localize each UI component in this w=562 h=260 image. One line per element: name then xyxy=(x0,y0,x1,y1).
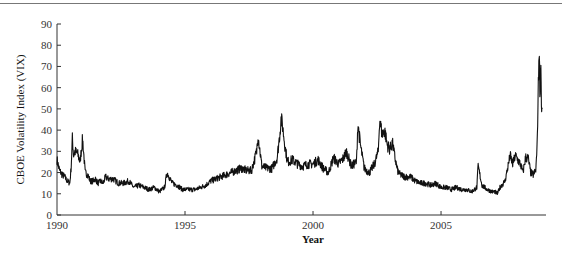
vix-series-line xyxy=(57,56,542,194)
y-axis-title: CBOE Volatility Index (VIX) xyxy=(14,54,27,184)
y-axis-ticks: 0102030405060708090 xyxy=(41,18,61,221)
x-tick-label: 2005 xyxy=(430,219,453,231)
vix-line-chart: 0102030405060708090 1990199520002005 CBO… xyxy=(0,0,562,260)
y-tick-label: 20 xyxy=(41,167,53,179)
y-tick-label: 30 xyxy=(41,145,53,157)
x-tick-label: 1995 xyxy=(174,219,197,231)
y-tick-label: 40 xyxy=(41,124,53,136)
y-tick-label: 80 xyxy=(41,39,53,51)
x-tick-label: 2000 xyxy=(302,219,325,231)
y-tick-label: 10 xyxy=(41,188,53,200)
y-tick-label: 90 xyxy=(41,18,53,30)
y-tick-label: 60 xyxy=(41,82,53,94)
x-axis-ticks: 1990199520002005 xyxy=(46,211,453,231)
y-tick-label: 70 xyxy=(41,60,53,72)
x-axis-title: Year xyxy=(302,233,324,245)
x-tick-label: 1990 xyxy=(46,219,69,231)
y-tick-label: 50 xyxy=(41,103,53,115)
